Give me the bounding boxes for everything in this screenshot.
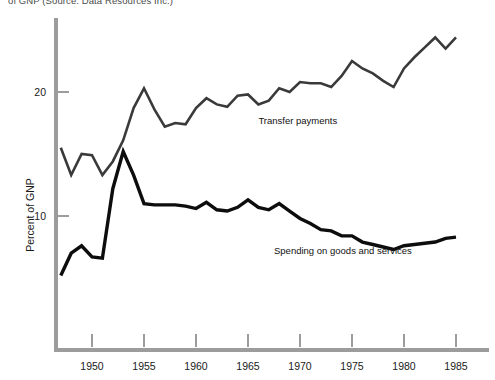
x-axis-tick-label: 1980: [392, 360, 416, 372]
y-axis-title: Percent of GNP: [24, 178, 36, 252]
x-axis-tick-label: 1965: [236, 360, 260, 372]
x-axis-tick-label: 1950: [80, 360, 104, 372]
series-label: Spending on goods and services: [274, 245, 412, 256]
series-annotation-group: Transfer paymentsSpending on goods and s…: [258, 115, 412, 256]
axis-group: [54, 18, 489, 352]
x-axis-tick-label: 1985: [444, 360, 468, 372]
x-axis-tick-label: 1955: [132, 360, 156, 372]
series-line: [61, 152, 456, 276]
x-axis-ticks: 19501955196019651970197519801985: [80, 334, 468, 372]
series-label: Transfer payments: [258, 115, 337, 126]
series-line: [61, 37, 456, 175]
x-axis-tick-label: 1970: [288, 360, 312, 372]
y-axis-tick-label: 20: [34, 86, 46, 98]
data-series-group: [61, 37, 456, 275]
x-axis-tick-label: 1975: [340, 360, 364, 372]
chart-plot-area: 1020 19501955196019651970197519801985 Pe…: [0, 0, 495, 380]
chart-container: of GNP (Source: Data Resources Inc.) 102…: [0, 0, 495, 380]
y-axis-tick-label: 10: [34, 210, 46, 222]
x-axis-tick-label: 1960: [184, 360, 208, 372]
